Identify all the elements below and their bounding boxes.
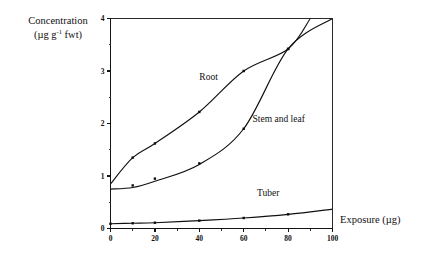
data-point-marker [243, 70, 245, 72]
plot-svg: 02040608010001234 RootStem and leafTuber [0, 0, 431, 254]
series-annotations: RootStem and leafTuber [199, 72, 305, 198]
series-label-stem-and-leaf: Stem and leaf [253, 114, 306, 124]
y-tick-label: 4 [101, 14, 105, 23]
x-tick-label: 20 [151, 234, 159, 243]
data-point-marker [154, 222, 156, 224]
data-point-marker [287, 213, 289, 215]
y-tick-label: 3 [101, 67, 105, 76]
data-point-marker [243, 217, 245, 219]
data-point-marker [154, 142, 156, 144]
x-tick-label: 60 [240, 234, 248, 243]
curve-root [111, 19, 311, 184]
axis-tick-labels: 02040608010001234 [101, 14, 339, 242]
data-point-marker [132, 184, 134, 186]
figure-container: Concentration (µg g-1 fwt) Exposure (µg)… [0, 0, 431, 254]
x-tick-label: 0 [109, 234, 113, 243]
data-point-marker [132, 222, 134, 224]
data-point-marker [109, 223, 111, 225]
y-tick-label: 1 [101, 172, 105, 181]
y-tick-label: 2 [101, 119, 105, 128]
data-point-marker [154, 177, 156, 179]
series-label-root: Root [199, 72, 218, 82]
axis-ticks [107, 19, 333, 233]
data-point-marker [198, 111, 200, 113]
x-tick-label: 40 [196, 234, 204, 243]
curve-stem-and-leaf [111, 19, 333, 190]
data-point-marker [198, 219, 200, 221]
y-tick-label: 0 [101, 224, 105, 233]
x-tick-label: 100 [327, 234, 339, 243]
data-point-marker [287, 48, 289, 50]
data-point-marker [198, 162, 200, 164]
series-label-tuber: Tuber [257, 188, 280, 198]
curve-tuber [111, 209, 333, 224]
x-tick-label: 80 [284, 234, 292, 243]
data-point-marker [132, 156, 134, 158]
data-point-marker [243, 128, 245, 130]
